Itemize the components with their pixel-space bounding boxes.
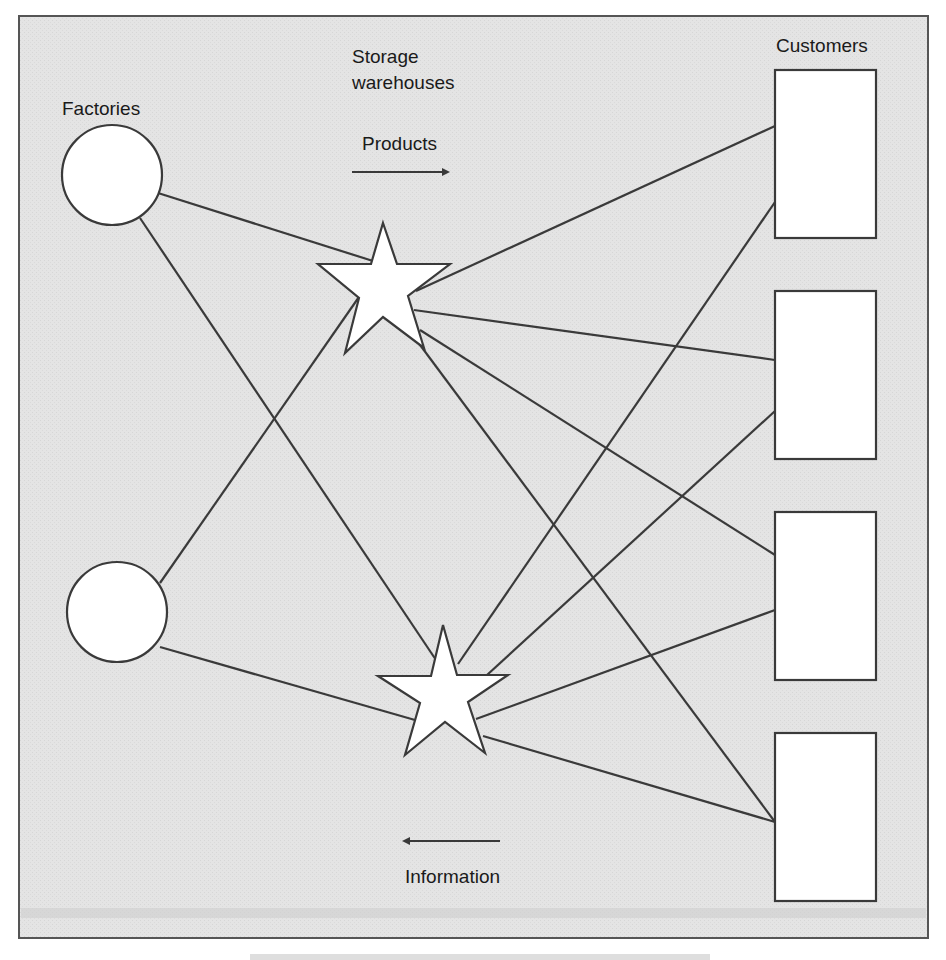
storage-label-line2: warehouses xyxy=(351,72,454,93)
customer-4-box xyxy=(775,733,876,901)
factory-2-node xyxy=(67,562,167,662)
cropped-caption-remnant xyxy=(250,954,710,960)
factory-1-node xyxy=(62,125,162,225)
supply-chain-diagram: Factories Storage warehouses Customers P… xyxy=(0,0,946,960)
customer-3-box xyxy=(775,512,876,680)
customer-2-box xyxy=(775,291,876,459)
customers-label: Customers xyxy=(776,35,868,56)
scan-smudge xyxy=(21,908,926,918)
factories-label: Factories xyxy=(62,98,140,119)
products-label: Products xyxy=(362,133,437,154)
information-label: Information xyxy=(405,866,500,887)
storage-label-line1: Storage xyxy=(352,46,419,67)
customer-1-box xyxy=(775,70,876,238)
